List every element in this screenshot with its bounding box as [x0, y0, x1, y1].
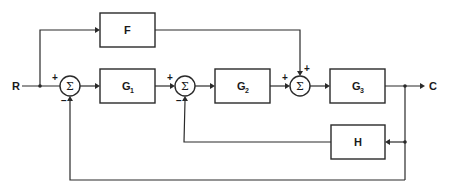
line-h-to-s2	[184, 101, 331, 142]
arrow-into-s3-top	[297, 71, 303, 76]
arrow-into-f	[95, 27, 100, 33]
summer-2: Σ + −	[167, 72, 195, 106]
summer-1: Σ + −	[52, 72, 80, 106]
sign-s3-left: +	[282, 72, 288, 83]
arrow-into-s2-bottom	[182, 96, 188, 101]
block-g3-subscript: 3	[360, 87, 364, 94]
block-h: H	[331, 125, 385, 159]
line-f-to-s3	[155, 30, 300, 71]
block-f: F	[100, 13, 155, 47]
sign-s2-left: +	[167, 72, 173, 83]
arrow-into-h	[385, 139, 390, 145]
sigma-symbol-1: Σ	[66, 80, 74, 93]
arrow-into-g2	[210, 83, 215, 89]
block-h-label: H	[354, 136, 362, 148]
sign-s3-top: +	[304, 63, 310, 74]
arrow-into-g3	[325, 83, 330, 89]
block-f-label: F	[124, 24, 131, 36]
sign-s1-left: +	[52, 72, 58, 83]
block-diagram: R F Σ + − G 1 Σ + − G 2	[0, 0, 450, 191]
block-g2: G 2	[215, 69, 270, 103]
sign-s1-bottom: −	[61, 95, 67, 106]
summer-3: Σ + +	[282, 63, 310, 96]
block-g3: G 3	[330, 69, 385, 103]
arrow-output	[420, 83, 425, 89]
arrow-into-g1	[95, 83, 100, 89]
sign-s2-bottom: −	[176, 95, 182, 106]
sigma-symbol-2: Σ	[181, 80, 189, 93]
block-g2-subscript: 2	[245, 87, 249, 94]
arrow-into-s1-bottom	[67, 96, 73, 101]
arrow-into-s3-left	[285, 83, 290, 89]
arrow-into-s2	[170, 83, 175, 89]
block-g1: G 1	[100, 69, 155, 103]
block-g1-subscript: 1	[130, 87, 134, 94]
sigma-symbol-3: Σ	[296, 80, 304, 93]
input-label-r: R	[12, 80, 20, 92]
output-label-c: C	[429, 80, 437, 92]
